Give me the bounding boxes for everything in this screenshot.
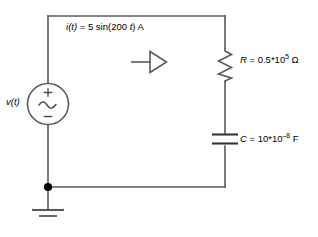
circuit-diagram: i(t) = 5 sin(200 t) A v(t) R = 0.5*105 Ω… xyxy=(0,0,318,237)
resistor-symbol-text: R xyxy=(240,54,247,65)
resistor-zigzag xyxy=(219,48,232,82)
capacitor-symbol-text: C xyxy=(240,133,247,144)
current-label: i(t) = 5 sin(200 t) A xyxy=(66,22,144,32)
node-dot-icon xyxy=(44,183,52,191)
current-direction-arrow-icon xyxy=(131,52,167,73)
current-equals: = 5 sin(200 xyxy=(77,21,130,32)
arrow-head xyxy=(150,52,167,73)
wire-group xyxy=(48,16,225,209)
resistor-label: R = 0.5*105 Ω xyxy=(240,55,299,65)
ground-symbol-icon xyxy=(32,210,64,216)
capacitor-label: C = 10*10–8 F xyxy=(240,134,299,144)
capacitor-exponent: –8 xyxy=(283,132,291,139)
current-arg: (t) xyxy=(68,21,77,32)
resistor-unit: Ω xyxy=(289,54,299,65)
source-arg: (t) xyxy=(11,96,20,107)
capacitor-unit: F xyxy=(290,133,298,144)
capacitor-equals: = 10*10 xyxy=(247,133,283,144)
resistor-symbol xyxy=(219,48,232,82)
source-label: v(t) xyxy=(6,97,20,107)
resistor-equals: = 0.5*10 xyxy=(247,54,285,65)
current-suffix: ) A xyxy=(132,21,144,32)
capacitor-symbol xyxy=(212,135,238,144)
circuit-schematic-canvas xyxy=(0,0,318,237)
ac-voltage-source xyxy=(28,84,69,125)
